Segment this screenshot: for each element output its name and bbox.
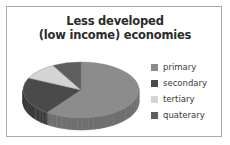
pie-chart-svg	[15, 52, 147, 134]
legend-label-tertiary: tertiary	[163, 94, 195, 104]
legend-item-primary[interactable]: primary	[151, 59, 227, 75]
legend-label-primary: primary	[163, 62, 196, 72]
pie-side-primary	[51, 114, 56, 127]
legend-label-secondary: secondary	[163, 78, 207, 88]
pie-side-primary	[47, 113, 52, 126]
pie-chart	[15, 52, 147, 134]
pie-side-primary	[56, 115, 61, 128]
pie-side-primary	[99, 116, 104, 129]
legend-swatch-quaterary	[151, 112, 158, 119]
legend-swatch-primary	[151, 64, 158, 71]
chart-title-line-1: Less developed	[7, 14, 223, 28]
pie-side-primary	[109, 113, 114, 126]
legend-label-quaterary: quaterary	[163, 110, 205, 120]
chart-legend: primary secondary tertiary quaterary	[151, 59, 227, 123]
pie-top-faces	[23, 62, 139, 118]
chart-title: Less developed (low income) economies	[7, 14, 223, 42]
chart-title-line-2: (low income) economies	[7, 28, 223, 42]
legend-item-quaterary[interactable]: quaterary	[151, 107, 227, 123]
pie-side-primary	[114, 112, 118, 126]
legend-swatch-tertiary	[151, 96, 158, 103]
pie-side-primary	[72, 118, 77, 130]
pie-side-primary	[77, 118, 82, 130]
chart-card: Less developed (low income) economies pr…	[6, 6, 222, 137]
pie-side-primary	[104, 115, 109, 128]
legend-item-tertiary[interactable]: tertiary	[151, 91, 227, 107]
pie-side-primary	[94, 117, 99, 130]
legend-swatch-secondary	[151, 80, 158, 87]
pie-side-primary	[126, 106, 129, 120]
legend-item-secondary[interactable]: secondary	[151, 75, 227, 91]
pie-side-primary	[118, 110, 122, 124]
pie-side-primary	[67, 117, 72, 130]
pie-side-primary	[83, 118, 88, 130]
pie-side-primary	[61, 116, 66, 129]
pie-side-primary	[88, 117, 93, 129]
pie-side-primary	[122, 108, 126, 122]
